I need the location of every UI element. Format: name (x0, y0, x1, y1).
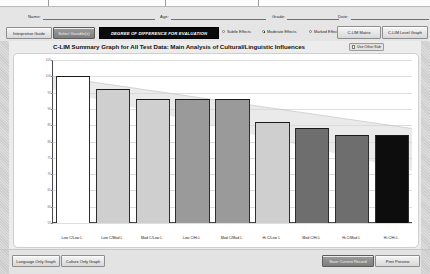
plot-area: 105100959085807570656055 (52, 60, 412, 223)
y-tick-label: 70 (47, 172, 51, 176)
x-axis-label: Low C/Hi L (172, 236, 212, 241)
radio-moderate-effects-label: Moderate Effects (267, 29, 296, 34)
x-axis-label: Mod C/Low L (132, 236, 172, 241)
checkbox-icon[interactable] (352, 45, 355, 48)
bar[interactable] (375, 135, 409, 223)
left-rail (0, 41, 9, 249)
gridline (53, 223, 412, 224)
use-other-sub-checkbox[interactable]: Use Other Sub (349, 43, 384, 51)
field-date-label: Date: (338, 14, 351, 20)
x-axis-label: Hi C/Hi L (371, 236, 411, 241)
clim-application-window: Name: Age: Grade: Date: Interpretive Gui… (0, 0, 430, 274)
field-name: Name: (28, 13, 155, 20)
y-tick-label: 60 (47, 205, 51, 209)
chart-panel: C-LIM Summary Graph for All Test Data: M… (9, 41, 421, 249)
radio-moderate-effects-icon[interactable] (262, 30, 265, 33)
y-tick-label: 100 (46, 74, 51, 78)
radio-marked-effects-label: Marked Effects (314, 29, 340, 34)
bar[interactable] (136, 99, 170, 223)
x-axis-label: Mod C/Mod L (212, 236, 252, 241)
bar-slot (173, 60, 213, 223)
interpretive-guide-button[interactable]: Interpretive Guide (6, 27, 52, 39)
radio-subtle-effects-icon[interactable] (222, 30, 225, 33)
bar-slot (292, 60, 332, 223)
field-age-label: Age: (160, 14, 171, 20)
bar[interactable] (335, 135, 369, 223)
use-other-sub-label: Use Other Sub (357, 45, 381, 49)
field-name-input[interactable] (43, 13, 155, 20)
y-tick-label: 65 (47, 188, 51, 192)
bar[interactable] (175, 99, 209, 223)
x-axis-label: Hi C/Mod L (331, 236, 371, 241)
bar-slot (53, 60, 93, 223)
footer-toolbar: Language Only Graph Culture Only Graph S… (0, 249, 430, 274)
language-only-graph-button[interactable]: Language Only Graph (12, 255, 60, 267)
x-axis-label: Hi C/Low L (251, 236, 291, 241)
radio-marked-effects-icon[interactable] (309, 30, 312, 33)
bar-slot (213, 60, 253, 223)
footer-left-edge (0, 250, 9, 274)
field-date: Date: (338, 13, 429, 20)
x-axis-label: Low C/Mod L (92, 236, 132, 241)
main-window: Name: Age: Grade: Date: Interpretive Gui… (0, 7, 430, 274)
bar[interactable] (56, 76, 90, 223)
field-date-input[interactable] (351, 13, 429, 20)
culture-only-graph-button[interactable]: Culture Only Graph (61, 255, 105, 267)
y-tick-label: 85 (47, 123, 51, 127)
print-preview-button[interactable]: Print Preview (375, 255, 420, 267)
radio-subtle-effects-label: Subtle Effects (227, 29, 251, 34)
field-grade-input[interactable] (287, 13, 339, 20)
bar-group (53, 60, 412, 223)
y-tick-label: 55 (47, 221, 51, 225)
subject-info-fields: Name: Age: Grade: Date: (0, 9, 430, 25)
footer-right-edge (421, 250, 430, 274)
clim-matrix-button[interactable]: C-LIM Matrix (337, 26, 381, 39)
bar-slot (372, 60, 412, 223)
bar[interactable] (215, 99, 249, 223)
x-axis-label: Mod C/Hi L (291, 236, 331, 241)
clim-level-graph-button[interactable]: C-LIM Level Graph (382, 26, 428, 39)
field-grade: Grade: (272, 13, 339, 20)
bar[interactable] (96, 89, 130, 223)
bar[interactable] (255, 122, 289, 223)
x-axis-label: Low C/Low L (52, 236, 92, 241)
bar-slot (252, 60, 292, 223)
bar-slot (93, 60, 133, 223)
y-tick-label: 90 (47, 107, 51, 111)
y-tick-label: 75 (47, 156, 51, 160)
x-axis-labels: Low C/Low LLow C/Mod LMod C/Low LLow C/H… (52, 225, 412, 241)
bar-slot (332, 60, 372, 223)
select-variables-button[interactable]: Select Variable(s) (53, 27, 95, 39)
save-current-record-button[interactable]: Save Current Record (322, 255, 374, 267)
field-age-input[interactable] (171, 13, 266, 20)
field-grade-label: Grade: (272, 14, 287, 20)
bar-slot (133, 60, 173, 223)
radio-subtle-effects[interactable]: Subtle Effects (222, 29, 251, 34)
field-age: Age: (160, 13, 266, 20)
toolbar: Interpretive Guide Select Variable(s) DE… (0, 25, 430, 39)
degree-of-difference-banner: DEGREE OF DIFFERENCE FOR EVALUATION (99, 27, 219, 39)
chart-title: C-LIM Summary Graph for All Test Data: M… (9, 43, 349, 50)
radio-marked-effects[interactable]: Marked Effects (309, 29, 340, 34)
radio-moderate-effects[interactable]: Moderate Effects (262, 29, 296, 34)
window-top-strip (0, 0, 430, 7)
y-tick-label: 80 (47, 140, 51, 144)
y-tick-label: 105 (46, 58, 51, 62)
bar[interactable] (295, 128, 329, 223)
field-name-label: Name: (28, 14, 43, 20)
y-tick-label: 95 (47, 91, 51, 95)
plot-card: 105100959085807570656055 Low C/Low LLow … (13, 53, 419, 248)
right-rail (421, 41, 430, 249)
